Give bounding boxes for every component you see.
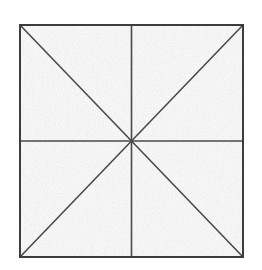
figure-root [0,0,262,270]
square-eight-triangles-diagram [0,0,262,270]
